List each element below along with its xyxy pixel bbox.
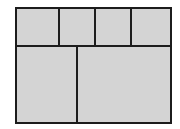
bottom-divider — [76, 46, 78, 123]
top-divider-3 — [130, 7, 132, 46]
top-divider-2 — [94, 7, 96, 46]
top-divider-1 — [58, 7, 60, 46]
